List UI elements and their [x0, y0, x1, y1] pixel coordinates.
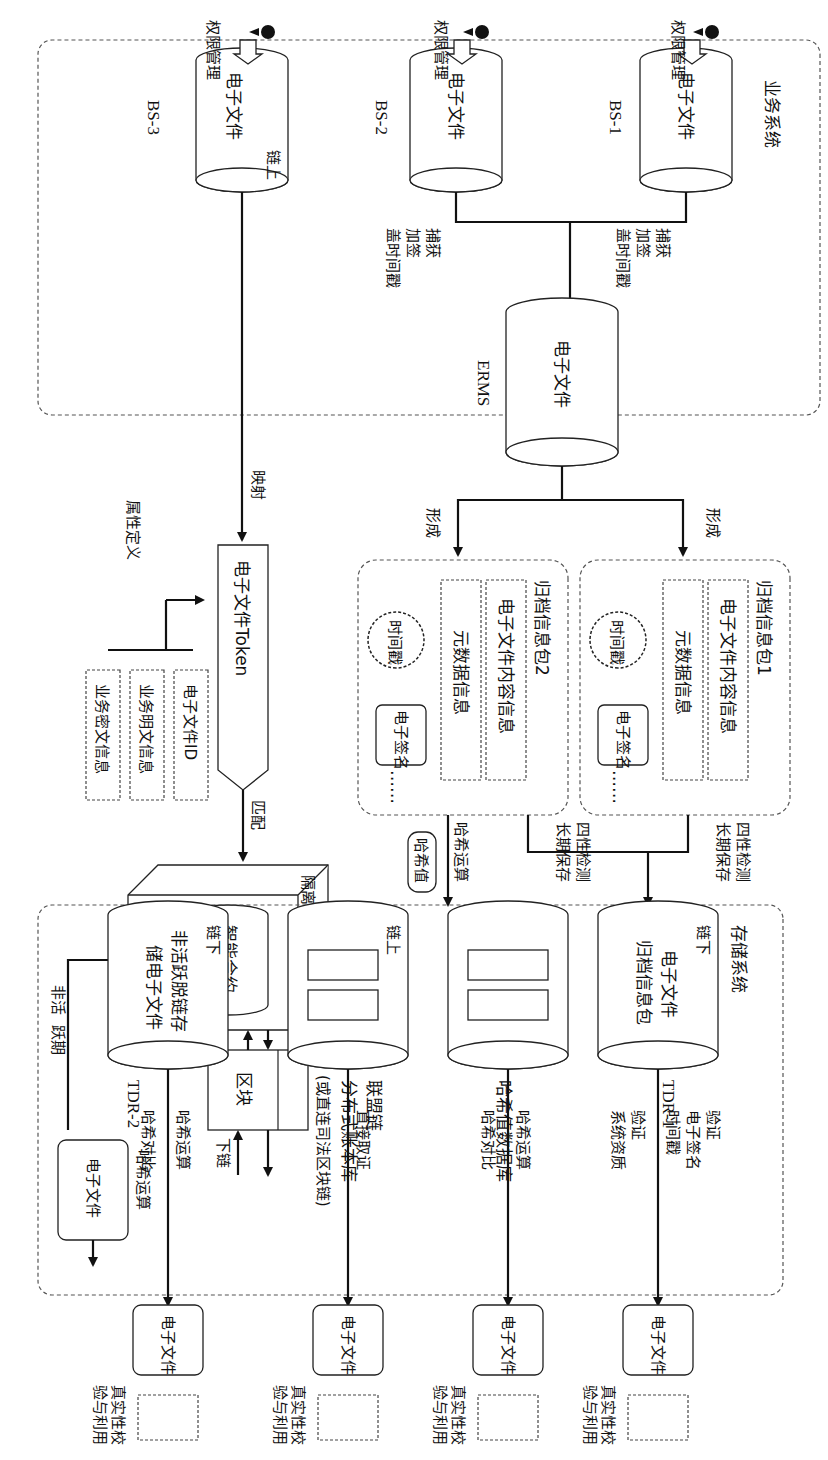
metadata-info: 元数据信息 [451, 630, 471, 715]
user-icon [475, 25, 489, 39]
user-computer-icon [478, 1395, 538, 1440]
capture-label-1: 捕获 [654, 228, 672, 258]
tdr-1-db-top [598, 1041, 718, 1069]
archive-package-2: 归档信息包2 电子文件内容信息 元数据信息 时间戳 电子签名 …… [358, 560, 568, 815]
bs-1-db-top [640, 168, 732, 192]
bs-2-perm-label: 权限管理 [432, 20, 450, 80]
diagram-canvas: 业务系统 电子文件 BS-1 权限管理 电子文件 BS-2 权限管理 [0, 0, 828, 1460]
tdr-2-tag: 链下 [204, 925, 222, 955]
bs-1-id: BS-1 [606, 100, 625, 135]
archive-out-label-1b: 长期保存 [714, 822, 732, 882]
attribute-list: 电子文件ID 业务明文信息 业务密文信息 [86, 670, 208, 800]
form-label-1: 形成 [704, 508, 722, 538]
bs-3: 链上 电子文件 BS-3 权限管理 [144, 20, 288, 192]
archive-out-label-2a: 四性检测 [574, 822, 592, 882]
user-icon-body [463, 28, 473, 36]
user-icon-body [693, 28, 703, 36]
archive-out-label-2b: 长期保存 [554, 822, 572, 882]
attribute-item: 电子文件ID [181, 684, 199, 760]
signature-label: 电子签名 [614, 710, 632, 770]
tdr-2-line1: 非活跃脱链存 [169, 930, 189, 1032]
timestamp-label: 时间戳 [386, 620, 404, 665]
verify-user-label: 真实性校 [599, 1385, 617, 1445]
bs-2: 电子文件 BS-2 权限管理 [372, 20, 502, 192]
content-info: 电子文件内容信息 [718, 598, 738, 734]
verify-file-label: 电子文件 [159, 1315, 177, 1375]
form-arrow-2 [458, 500, 562, 555]
verify-1-label: 时间戳 [664, 1110, 682, 1155]
bs-1: 电子文件 BS-1 权限管理 [606, 20, 732, 192]
metadata-info: 元数据信息 [673, 630, 693, 715]
verify-user-label: 验与利用 [91, 1385, 109, 1445]
verify-1-label: 验证 [704, 1110, 722, 1140]
down-chain-label: 下链 [214, 1138, 232, 1168]
verify-1-label: 验证 [629, 1110, 647, 1140]
verify-user-label: 验与利用 [431, 1385, 449, 1445]
bs-1-db-label: 电子文件 [676, 72, 696, 140]
erms-name: ERMS [474, 360, 493, 406]
hash-db-label: 哈希值数据库 [494, 1080, 514, 1182]
block-box [208, 1050, 308, 1130]
bs-3-id: BS-3 [144, 100, 163, 135]
form-arrow-1 [562, 466, 683, 555]
verify-user-label: 验与利用 [271, 1385, 289, 1445]
tdr-1-line1: 电子文件 [659, 950, 679, 1018]
attribute-item: 业务明文信息 [137, 684, 155, 774]
ledger-block-icon [468, 990, 548, 1020]
user-computer-icon [138, 1395, 198, 1440]
inactive-file-label: 电子文件 [84, 1158, 102, 1218]
ledger-block-icon [308, 950, 378, 980]
user-icon [705, 25, 719, 39]
attr-def-label: 属性定义 [124, 500, 142, 560]
verify-user-label: 真实性校 [289, 1385, 307, 1445]
verify-row-2: 电子文件 真实性校 验与利用 [431, 1305, 543, 1445]
capture-label-3: 盖时间戳 [614, 228, 632, 288]
business-system-group: 业务系统 电子文件 BS-1 权限管理 电子文件 BS-2 权限管理 [38, 20, 820, 415]
signature-label: 电子签名 [392, 710, 410, 770]
hash-op-label: 哈希运算 [452, 822, 470, 882]
hash-value-label: 哈希值 [412, 838, 430, 883]
map-label: 映射 [249, 470, 267, 500]
match-label: 匹配 [249, 800, 267, 830]
verify-row-1: 电子文件 真实性校 验与利用 [581, 1305, 693, 1445]
inactive-label-1: 非活 [49, 985, 67, 1015]
user-computer-icon [318, 1395, 378, 1440]
bs-2-db-label: 电子文件 [446, 72, 466, 140]
token: 电子文件Token [218, 545, 268, 790]
verify-file-label: 电子文件 [649, 1315, 667, 1375]
erms-db-label: 电子文件 [552, 340, 572, 408]
verify-row-3: 电子文件 真实性校 验与利用 [271, 1305, 383, 1445]
business-system-title: 业务系统 [762, 80, 782, 148]
content-info: 电子文件内容信息 [496, 598, 516, 734]
inactive-label-2: 跃期 [49, 1025, 67, 1055]
bs-3-db-label: 电子文件 [224, 72, 244, 140]
verify-file-label: 电子文件 [499, 1315, 517, 1375]
user-computer-icon [628, 1395, 688, 1440]
verify-file-label: 电子文件 [339, 1315, 357, 1375]
consortium-line3: (或直连司法区块链) [314, 1075, 332, 1207]
verify-2-label: 哈希对比 [479, 1110, 497, 1170]
capture-label-2b: 加签 [404, 228, 422, 258]
bs-2-db-top [410, 168, 502, 192]
capture-connector [456, 192, 686, 222]
attribute-item: 业务密文信息 [93, 684, 111, 774]
bs-3-perm-label: 权限管理 [204, 20, 222, 80]
verify-user-label: 真实性校 [109, 1385, 127, 1445]
capture-label-2: 加签 [634, 228, 652, 258]
verify-3-label: 直接取证 [354, 1110, 372, 1170]
erms-db-top [506, 438, 618, 466]
user-icon-body [249, 28, 259, 36]
tdr-2-db-top [108, 1041, 228, 1069]
bs-2-id: BS-2 [372, 100, 391, 135]
archive-out-label-1a: 四性检测 [734, 822, 752, 882]
erms: 电子文件 ERMS [474, 298, 618, 466]
tdr-1-line2: 归档信息包 [634, 940, 654, 1025]
verify-user-label: 真实性校 [449, 1385, 467, 1445]
bs-3-chain-tag: 链上 [264, 150, 282, 180]
tdr-1-tag: 链下 [694, 925, 712, 955]
archive-connector [528, 815, 688, 852]
bs-1-perm-label: 权限管理 [669, 20, 687, 80]
ellipsis: …… [609, 770, 629, 804]
consortium-db-top [288, 1041, 408, 1069]
form-label-2: 形成 [424, 508, 442, 538]
